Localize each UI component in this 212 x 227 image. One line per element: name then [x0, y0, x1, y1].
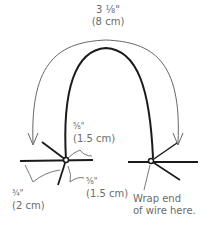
- top-length-label: 3 ⅛" (8 cm): [88, 4, 128, 28]
- left-side-metric: (2 cm): [12, 200, 45, 212]
- left-upper-length-label: ⅝" (1.5 cm): [73, 121, 115, 145]
- wrap-note: Wrap end of wire here.: [133, 193, 196, 217]
- wrap-note-line1: Wrap end: [133, 193, 196, 205]
- left-lower-metric: (1.5 cm): [86, 188, 128, 200]
- left-lower-length-label: ⅝" (1.5 cm): [86, 176, 128, 200]
- left-upper-imperial: ⅝": [73, 121, 115, 133]
- top-length-imperial: 3 ⅛": [88, 4, 128, 16]
- top-length-metric: (8 cm): [88, 16, 128, 28]
- left-side-length-label: ¾" (2 cm): [12, 188, 45, 212]
- right-junction: [128, 143, 198, 190]
- wrap-note-line2: of wire here.: [133, 205, 196, 217]
- left-side-imperial: ¾": [12, 188, 45, 200]
- left-lower-imperial: ⅝": [86, 176, 128, 188]
- left-upper-metric: (1.5 cm): [73, 133, 115, 145]
- left-junction: [20, 142, 93, 185]
